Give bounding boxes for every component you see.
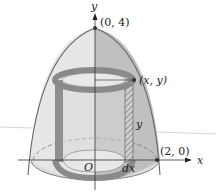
apex-point xyxy=(93,26,97,30)
curve-point xyxy=(132,78,136,82)
base-point xyxy=(155,158,159,162)
base-point-label: (2, 0) xyxy=(160,145,190,158)
shell-method-figure: y x (0, 4) (2, 0) (x, y) y dx O xyxy=(0,0,216,196)
thickness-label: dx xyxy=(122,162,136,175)
height-label: y xyxy=(135,118,143,131)
y-axis-label: y xyxy=(90,0,98,13)
x-axis-label: x xyxy=(197,154,204,167)
curve-point-label: (x, y) xyxy=(139,74,167,87)
origin-label: O xyxy=(84,161,93,174)
apex-label: (0, 4) xyxy=(100,16,130,29)
